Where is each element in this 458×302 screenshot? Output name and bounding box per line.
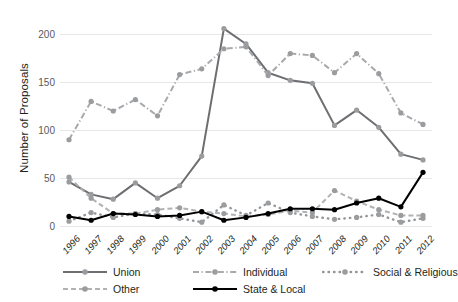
data-point (111, 108, 116, 113)
x-axis-tick-label: 2004 (237, 233, 259, 256)
series-line (69, 47, 423, 140)
data-point (66, 214, 71, 219)
series-individual (66, 44, 425, 142)
data-point (66, 137, 71, 142)
y-axis-tick-label: 50 (44, 173, 55, 184)
data-point (354, 215, 359, 220)
data-point (376, 212, 381, 217)
data-point (89, 196, 94, 201)
data-point (89, 210, 94, 215)
data-point (420, 122, 425, 127)
data-point (133, 212, 138, 217)
legend-item-individual[interactable]: Individual (192, 266, 322, 278)
x-axis-tick-label: 1998 (104, 233, 126, 256)
series-other (66, 175, 425, 219)
data-point (111, 211, 116, 216)
legend-swatch (192, 266, 238, 278)
legend-row: OtherState & Local (62, 280, 438, 297)
series-line (69, 29, 423, 200)
data-point (177, 72, 182, 77)
data-point (420, 170, 425, 175)
data-point (332, 123, 337, 128)
data-point (332, 207, 337, 212)
data-point (66, 175, 71, 180)
data-point (177, 183, 182, 188)
legend-row: UnionIndividualSocial & Religious (62, 263, 438, 280)
data-point (288, 51, 293, 56)
data-point (266, 73, 271, 78)
data-point (310, 206, 315, 211)
series-layer (60, 20, 432, 226)
legend-label: Union (113, 266, 140, 278)
legend-swatch (62, 283, 108, 295)
data-point (89, 218, 94, 223)
data-point (354, 200, 359, 205)
data-point (199, 153, 204, 158)
legend-item-other[interactable]: Other (62, 283, 192, 295)
legend-label: Individual (243, 266, 287, 278)
legend-item-state-local[interactable]: State & Local (192, 283, 322, 295)
data-point (221, 26, 226, 31)
data-point (177, 205, 182, 210)
legend-swatch (322, 266, 368, 278)
data-point (332, 217, 337, 222)
data-point (221, 46, 226, 51)
data-point (376, 207, 381, 212)
data-point (332, 70, 337, 75)
y-axis-tick-label: 100 (38, 125, 55, 136)
legend-label: Social & Religious (373, 266, 458, 278)
data-point (398, 110, 403, 115)
x-axis-tick-label: 2000 (148, 233, 170, 256)
y-axis-tick-label: 150 (38, 77, 55, 88)
x-axis-tick-label: 2008 (325, 233, 347, 256)
x-axis-tick-label: 2002 (193, 233, 215, 256)
x-axis-tick-label: 2011 (392, 233, 414, 256)
data-point (243, 44, 248, 49)
data-point (133, 97, 138, 102)
data-point (199, 209, 204, 214)
x-axis-tick-label: 1996 (60, 233, 82, 256)
data-point (398, 204, 403, 209)
data-point (221, 202, 226, 207)
data-point (398, 152, 403, 157)
data-point (310, 53, 315, 58)
data-point (288, 78, 293, 83)
x-axis-tick-label: 2007 (303, 233, 325, 256)
data-point (354, 51, 359, 56)
data-point (310, 81, 315, 86)
plot-area: 050100150200 199619971998199920002001200… (60, 20, 432, 226)
x-axis-tick-label: 2010 (370, 233, 392, 256)
legend-swatch (62, 266, 108, 278)
legend-item-union[interactable]: Union (62, 266, 192, 278)
data-point (376, 196, 381, 201)
data-point (155, 214, 160, 219)
data-point (221, 211, 226, 216)
data-point (155, 113, 160, 118)
data-point (177, 213, 182, 218)
data-point (376, 125, 381, 130)
y-axis-tick-label: 0 (49, 221, 55, 232)
data-point (288, 206, 293, 211)
data-point (354, 107, 359, 112)
x-axis-tick-label: 2003 (215, 233, 237, 256)
x-axis-tick-label: 1999 (126, 233, 148, 256)
data-point (66, 219, 71, 224)
data-point (420, 213, 425, 218)
data-point (398, 213, 403, 218)
data-point (376, 71, 381, 76)
data-point (266, 211, 271, 216)
data-point (89, 99, 94, 104)
series-line (69, 177, 423, 216)
gridline (60, 226, 432, 227)
x-axis-tick-label: 2012 (414, 233, 436, 256)
x-axis-tick-label: 2009 (347, 233, 369, 256)
legend-label: State & Local (243, 283, 305, 295)
legend-item-social-religious[interactable]: Social & Religious (322, 266, 438, 278)
x-axis-tick-label: 2001 (170, 233, 192, 256)
data-point (133, 180, 138, 185)
data-point (155, 196, 160, 201)
x-axis-tick-label: 2005 (259, 233, 281, 256)
data-point (111, 197, 116, 202)
legend-label: Other (113, 283, 139, 295)
